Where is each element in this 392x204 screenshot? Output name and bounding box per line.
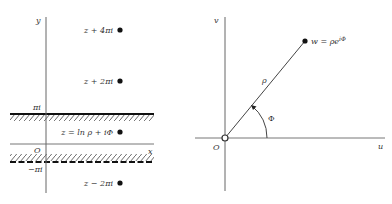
y-axis-label: y xyxy=(35,16,41,25)
point-z xyxy=(117,129,122,134)
angle-arc xyxy=(252,106,268,139)
v-axis-label: v xyxy=(214,16,219,25)
point-label-z-plus-4pi-i: z + 4πi xyxy=(83,26,113,35)
point-label-w-base: w = ρe xyxy=(311,37,339,46)
angle-label: Φ xyxy=(268,114,275,123)
x-axis-label: x xyxy=(148,147,153,156)
minus-pi-i-label: −πi xyxy=(28,165,43,174)
point-label-z: z = ln ρ + iΦ xyxy=(60,128,113,137)
origin-label: O xyxy=(34,146,41,155)
lower-hatch xyxy=(10,154,154,161)
left-panel: y x O πi −πi z + 4πi z + 2πi z = ln ρ + … xyxy=(10,16,154,193)
point-label-z-plus-2pi-i: z + 2πi xyxy=(83,77,113,86)
u-axis-label: u xyxy=(378,142,383,151)
pi-i-label: πi xyxy=(32,103,41,112)
point-label-w: w = ρeiΦ xyxy=(311,35,346,46)
point-w xyxy=(302,38,307,43)
right-panel: v u O ρ Φ w = ρeiΦ xyxy=(195,16,385,191)
point-label-z-minus-2pi-i: z − 2πi xyxy=(83,179,113,188)
origin-point xyxy=(222,135,228,141)
point-z-plus-4pi-i xyxy=(117,27,122,32)
origin-label-w: O xyxy=(213,143,220,152)
figure: y x O πi −πi z + 4πi z + 2πi z = ln ρ + … xyxy=(0,0,392,204)
point-label-w-exponent: iΦ xyxy=(339,35,346,42)
point-z-plus-2pi-i xyxy=(117,78,122,83)
point-z-minus-2pi-i xyxy=(117,180,122,185)
radius-label: ρ xyxy=(261,76,267,85)
upper-hatch xyxy=(10,115,154,121)
